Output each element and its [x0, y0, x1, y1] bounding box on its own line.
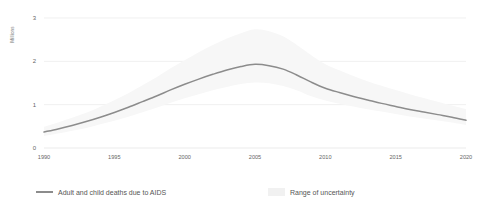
legend-band-swatch-icon	[268, 188, 285, 196]
x-axis-tick-2020: 2020	[460, 154, 472, 160]
x-axis-tick-2015: 2015	[389, 154, 401, 160]
uncertainty-band-soft	[44, 29, 466, 136]
chart-plot-area	[0, 0, 487, 206]
y-axis-tick-0: 0	[20, 145, 36, 151]
aids-deaths-line-chart: Millions 0123 19901995200020052010201520…	[0, 0, 487, 206]
x-axis-tick-2010: 2010	[319, 154, 331, 160]
chart-legend: Adult and child deaths due to AIDS Range…	[0, 184, 487, 202]
legend-item-label: Adult and child deaths due to AIDS	[58, 188, 166, 197]
legend-line-swatch-icon	[36, 191, 53, 193]
x-axis-tick-2000: 2000	[178, 154, 190, 160]
y-axis-tick-2: 2	[20, 58, 36, 64]
y-axis-tick-1: 1	[20, 102, 36, 108]
x-axis-tick-1990: 1990	[38, 154, 50, 160]
legend-item-range-of-uncertainty[interactable]: Range of uncertainty	[268, 186, 355, 198]
x-axis-tick-2005: 2005	[249, 154, 261, 160]
y-axis-title: Millions	[10, 12, 15, 58]
legend-item-aids-deaths[interactable]: Adult and child deaths due to AIDS	[36, 186, 166, 198]
x-axis-tick-1995: 1995	[108, 154, 120, 160]
y-axis-tick-3: 3	[20, 15, 36, 21]
legend-item-label: Range of uncertainty	[290, 188, 355, 197]
